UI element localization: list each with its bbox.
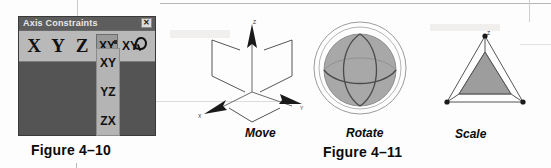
- dialog-titlebar[interactable]: Axis Constraints ✕: [19, 17, 155, 31]
- axis-button-z[interactable]: Z: [71, 34, 93, 58]
- dialog-title: Axis Constraints: [23, 18, 98, 28]
- svg-text:Z: Z: [487, 30, 490, 36]
- scan-line-right: [529, 0, 530, 22]
- move-gizmo-label: Move: [245, 126, 276, 140]
- scan-tick-bottom: [76, 163, 77, 168]
- scan-rule-top: [160, 3, 551, 4]
- flyout-item-xy[interactable]: XY: [97, 49, 119, 78]
- scale-gizmo: Z: [437, 30, 533, 126]
- svg-text:X: X: [198, 113, 202, 119]
- page-canvas: Axis Constraints ✕ X Y Z XY XY XY YZ ZX …: [0, 0, 551, 168]
- close-icon[interactable]: ✕: [141, 18, 152, 28]
- rotate-gizmo-label: Rotate: [346, 126, 383, 140]
- axis-toolbar: X Y Z XY XY: [19, 31, 155, 62]
- flyout-item-yz[interactable]: YZ: [97, 78, 119, 107]
- move-gizmo: Z X Y: [196, 14, 308, 128]
- axis-constraints-dialog[interactable]: Axis Constraints ✕ X Y Z XY XY XY YZ ZX: [18, 16, 156, 136]
- scan-line-left: [77, 0, 78, 16]
- scale-gizmo-label: Scale: [455, 127, 486, 141]
- flyout-item-zx[interactable]: ZX: [97, 107, 119, 136]
- svg-text:Y: Y: [300, 105, 304, 111]
- figure-4-11-caption: Figure 4–11: [323, 144, 402, 160]
- axis-button-xy-flyout[interactable]: XY: [122, 34, 148, 58]
- axis-plane-flyout-list[interactable]: XY YZ ZX: [96, 48, 120, 136]
- flyout-corner-marker-icon: [114, 40, 117, 44]
- figure-4-10-caption: Figure 4–10: [31, 142, 111, 158]
- rotate-gizmo: [312, 18, 408, 122]
- svg-text:Z: Z: [253, 19, 256, 25]
- axis-button-x[interactable]: X: [23, 34, 45, 58]
- axis-button-y[interactable]: Y: [47, 34, 69, 58]
